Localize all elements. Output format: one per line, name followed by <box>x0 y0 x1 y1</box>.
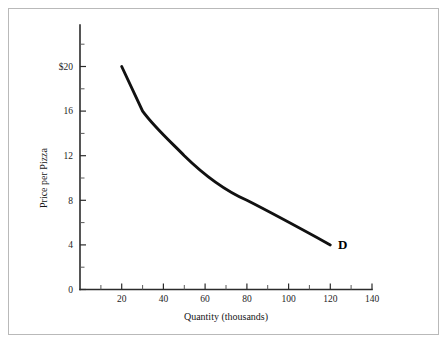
demand-curve-label: D <box>338 237 347 252</box>
x-tick-label: 140 <box>365 294 380 304</box>
x-tick-label: 80 <box>242 294 252 304</box>
chart-canvas: 0 4 8 12 16 $20 20 40 60 80 100 120 140 … <box>0 0 447 343</box>
y-tick-label: 0 <box>68 285 73 295</box>
x-axis-tick-labels: 20 40 60 80 100 120 140 <box>117 294 379 304</box>
y-tick-label: $20 <box>59 62 74 72</box>
x-tick-label: 20 <box>117 294 127 304</box>
x-axis-title: Quantity (thousands) <box>184 311 268 323</box>
y-tick-label: 4 <box>68 240 73 250</box>
demand-curve-figure: 0 4 8 12 16 $20 20 40 60 80 100 120 140 … <box>0 0 447 343</box>
y-axis-tick-labels: 0 4 8 12 16 $20 <box>59 62 74 295</box>
y-tick-label: 12 <box>64 151 74 161</box>
demand-curve-line <box>122 67 331 245</box>
x-tick-label: 40 <box>159 294 169 304</box>
y-axis-title: Price per Pizza <box>38 147 49 208</box>
x-axis-major-ticks <box>122 284 372 290</box>
y-tick-label: 8 <box>68 196 73 206</box>
y-tick-label: 16 <box>64 106 74 116</box>
x-tick-label: 60 <box>200 294 210 304</box>
x-tick-label: 120 <box>323 294 338 304</box>
x-tick-label: 100 <box>281 294 296 304</box>
